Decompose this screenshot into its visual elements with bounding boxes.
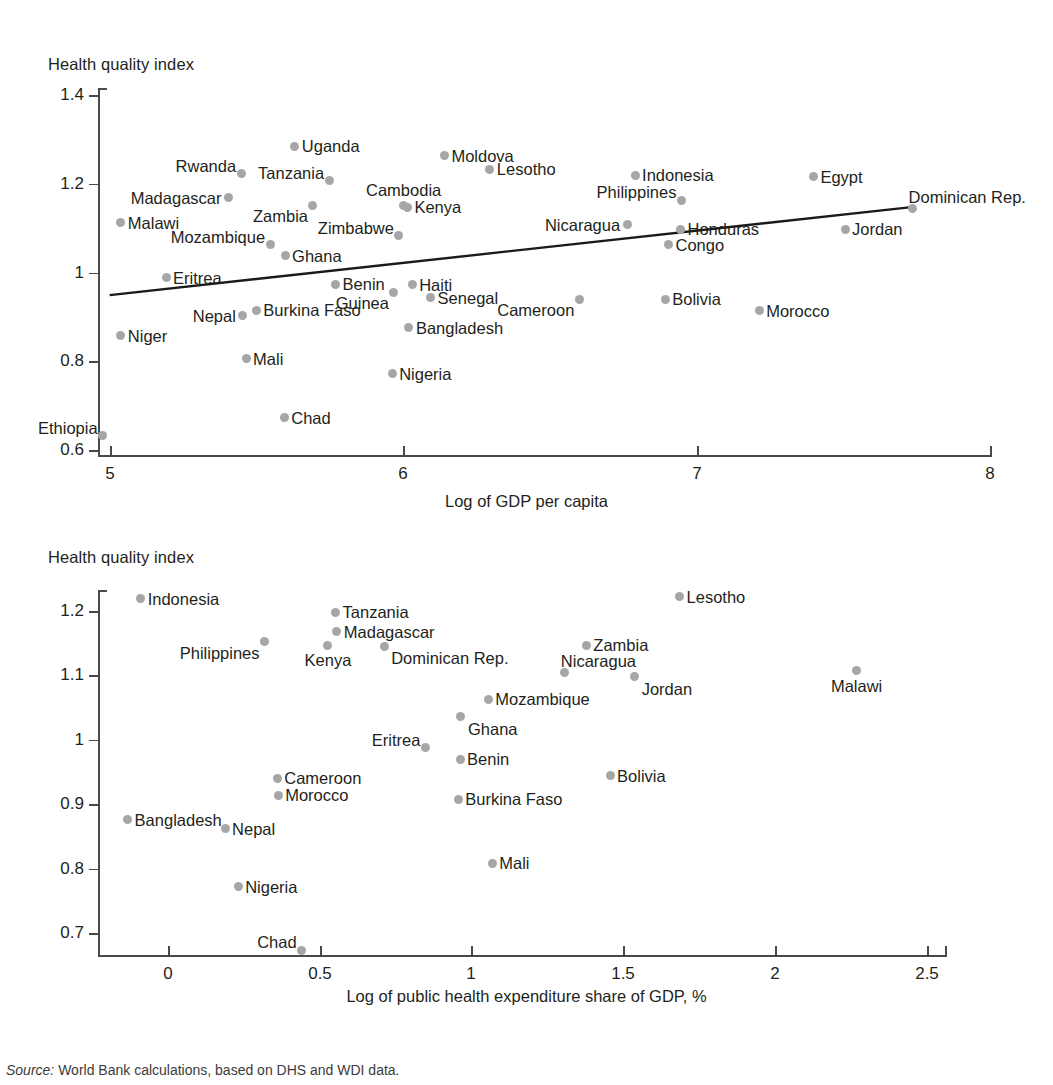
- data-point-label: Cameroon: [284, 770, 361, 787]
- data-point: [456, 755, 465, 764]
- data-point-label: Chad: [291, 409, 330, 426]
- x-tick-label: 6: [363, 464, 443, 484]
- data-point-label: Zambia: [253, 208, 308, 225]
- data-point-label: Guinea: [336, 295, 389, 312]
- trend-line: [0, 0, 1053, 520]
- data-point-label: Dominican Rep.: [909, 189, 1026, 206]
- data-point-label: Indonesia: [642, 167, 714, 184]
- data-point-label: Zambia: [593, 637, 648, 654]
- y-tick-label: 1.1: [22, 665, 84, 685]
- data-point: [224, 193, 233, 202]
- data-point-label: Benin: [467, 751, 509, 768]
- data-point-label: Lesotho: [497, 161, 556, 178]
- data-point: [297, 946, 306, 955]
- y-tick: [89, 869, 99, 871]
- data-point-label: Bolivia: [617, 768, 666, 785]
- data-point-label: Bangladesh: [135, 811, 222, 828]
- data-point-label: Bolivia: [672, 291, 721, 308]
- data-point: [98, 431, 107, 440]
- data-point: [606, 771, 615, 780]
- data-point: [332, 627, 341, 636]
- x-tick: [623, 946, 625, 956]
- x-tick: [403, 446, 405, 456]
- data-point: [454, 795, 463, 804]
- data-point-label: Nicaragua: [561, 653, 636, 670]
- data-point: [252, 306, 261, 315]
- panel1-x-axis-title: Log of GDP per capita: [0, 492, 1053, 511]
- data-point: [162, 273, 171, 282]
- data-point: [136, 594, 145, 603]
- data-point: [280, 413, 289, 422]
- data-point-label: Niger: [128, 328, 167, 345]
- data-point: [664, 240, 673, 249]
- data-point-label: Ghana: [468, 720, 518, 737]
- y-tick-label: 0.9: [22, 794, 84, 814]
- y-tick: [89, 184, 99, 186]
- data-point: [623, 220, 632, 229]
- y-axis-spine: [98, 88, 100, 455]
- y-tick: [89, 450, 99, 452]
- x-tick-label: 2: [735, 964, 815, 984]
- data-point: [852, 666, 861, 675]
- data-point-label: Philippines: [180, 645, 260, 662]
- x-axis-right-cap: [945, 946, 947, 955]
- data-point: [404, 323, 413, 332]
- data-point-label: Rwanda: [176, 158, 237, 175]
- data-point-label: Nepal: [193, 307, 236, 324]
- y-tick-label: 0.8: [22, 351, 84, 371]
- data-point: [325, 176, 334, 185]
- x-axis-spine: [98, 955, 947, 957]
- x-tick-label: 5: [70, 464, 150, 484]
- y-tick: [89, 933, 99, 935]
- x-tick-label: 1.5: [583, 964, 663, 984]
- data-point-label: Zimbabwe: [318, 219, 394, 236]
- data-point: [242, 354, 251, 363]
- data-point: [331, 280, 340, 289]
- data-point-label: Kenya: [305, 652, 352, 669]
- x-tick: [990, 446, 992, 456]
- figure-root: Health quality index 0.60.811.21.45678Et…: [0, 0, 1053, 1085]
- y-tick-label: 1.2: [22, 601, 84, 621]
- y-tick-label: 1.4: [22, 85, 84, 105]
- data-point: [123, 815, 132, 824]
- data-point: [237, 169, 246, 178]
- y-tick: [89, 95, 99, 97]
- y-tick-label: 1.2: [22, 174, 84, 194]
- data-point: [440, 151, 449, 160]
- y-tick: [89, 675, 99, 677]
- source-label: Source:: [6, 1062, 54, 1078]
- panel2-y-axis-title: Health quality index: [48, 548, 194, 567]
- data-point: [484, 695, 493, 704]
- chart-panel-gdp: Health quality index 0.60.811.21.45678Et…: [0, 0, 1053, 520]
- data-point-label: Eritrea: [372, 731, 421, 748]
- data-point-label: Uganda: [302, 138, 360, 155]
- data-point: [221, 824, 230, 833]
- y-tick: [89, 740, 99, 742]
- data-point-label: Senegal: [438, 290, 499, 307]
- data-point-label: Ethiopia: [38, 420, 98, 437]
- y-axis-spine: [98, 590, 100, 955]
- data-point-label: Benin: [343, 276, 385, 293]
- data-point: [408, 280, 417, 289]
- x-tick-label: 7: [657, 464, 737, 484]
- data-point: [116, 331, 125, 340]
- data-point: [630, 672, 639, 681]
- data-point-label: Mozambique: [171, 228, 265, 245]
- y-tick: [89, 804, 99, 806]
- x-axis-spine: [98, 455, 992, 457]
- panel2-x-axis-title: Log of public health expenditure share o…: [0, 987, 1053, 1006]
- y-tick-label: 0.7: [22, 923, 84, 943]
- data-point: [238, 311, 247, 320]
- data-point: [575, 295, 584, 304]
- data-point-label: Cambodia: [366, 182, 441, 199]
- x-tick: [320, 946, 322, 956]
- data-point-label: Congo: [676, 236, 725, 253]
- data-point-label: Philippines: [597, 184, 677, 201]
- data-point: [273, 774, 282, 783]
- x-tick: [775, 946, 777, 956]
- data-point: [274, 791, 283, 800]
- data-point: [403, 203, 412, 212]
- data-point: [323, 641, 332, 650]
- data-point: [675, 592, 684, 601]
- data-point: [661, 295, 670, 304]
